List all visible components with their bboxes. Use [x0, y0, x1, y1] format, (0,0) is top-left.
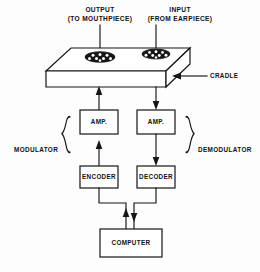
- cradle-cup-output: [85, 52, 115, 63]
- flow-cradle-to-amp: [153, 87, 160, 110]
- amp-right-label: AMP.: [148, 118, 164, 125]
- cradle-cup-input: [142, 49, 170, 59]
- input-label-line1: INPUT: [169, 6, 191, 13]
- modulator-label: MODULATOR: [14, 146, 58, 153]
- encoder-label: ENCODER: [82, 173, 116, 180]
- flow-decoder-to-computer: [131, 188, 156, 229]
- block-diagram-canvas: OUTPUT (TO MOUTHPIECE) INPUT (FROM EARPI…: [0, 0, 260, 272]
- output-label-line2: (TO MOUTHPIECE): [68, 15, 132, 22]
- output-label-line1: OUTPUT: [85, 6, 114, 13]
- flow-computer-to-encoder: [99, 188, 129, 229]
- cradle-label: CRADLE: [210, 72, 238, 79]
- demodulator-brace: [186, 117, 194, 153]
- computer-label: COMPUTER: [112, 239, 151, 246]
- flow-amp-to-cradle: [96, 86, 103, 110]
- modulator-brace: [62, 117, 70, 153]
- flow-encoder-to-amp: [96, 140, 103, 166]
- input-label-line2: (FROM EARPIECE): [148, 15, 213, 22]
- decoder-label: DECODER: [139, 173, 173, 180]
- amp-left-label: AMP.: [91, 118, 107, 125]
- cradle-front-face: [46, 71, 166, 87]
- diagram-vector-layer: [0, 0, 260, 272]
- demodulator-label: DEMODULATOR: [198, 146, 252, 153]
- flow-amp-to-decoder: [153, 134, 160, 166]
